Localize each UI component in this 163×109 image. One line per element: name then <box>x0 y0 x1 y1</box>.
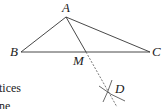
label-c: C <box>152 44 161 59</box>
median-am <box>66 17 86 52</box>
dashed-extension-md <box>86 52 117 107</box>
construction-arc-1 <box>103 80 112 102</box>
segment-ab <box>21 17 66 52</box>
label-a: A <box>61 0 70 15</box>
triangle-median-diagram: A B C M D tices ne <box>0 0 163 109</box>
label-b: B <box>10 44 18 59</box>
label-m: M <box>72 53 85 68</box>
text-fragment-1: tices <box>0 81 21 95</box>
text-fragment-2: ne <box>0 99 10 109</box>
segment-ac <box>66 17 150 52</box>
label-d: D <box>114 81 125 96</box>
